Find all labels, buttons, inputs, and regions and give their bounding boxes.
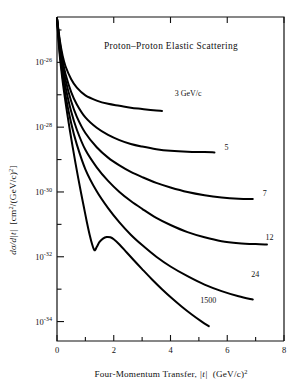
curve-24-gev-c (57, 19, 253, 300)
curve-label-4: 24 (251, 270, 259, 279)
y-axis-title: dσ/d|t| [cm2/(GeV/c)2] (7, 165, 18, 255)
y-tick-label: 10-26 (35, 56, 52, 67)
x-tick-label: 8 (282, 345, 286, 355)
x-axis-title-text: Four-Momentum Transfer, |t| (GeV/c)2 (94, 368, 247, 379)
y-tick-label: 10-30 (35, 186, 52, 197)
x-axis-tick-labels: 02468 (55, 345, 286, 355)
curve-label-3: 12 (266, 233, 274, 242)
y-axis-tick-labels: 10-2610-2810-3010-3210-34 (35, 56, 52, 327)
x-tick-label: 2 (112, 345, 116, 355)
curve-label-1: 5 (224, 143, 228, 152)
curve-group (57, 19, 267, 326)
y-axis-title-text: dσ/d|t| [cm2/(GeV/c)2] (7, 165, 18, 255)
x-axis-title: Four-Momentum Transfer, |t| (GeV/c)2 (94, 368, 247, 379)
y-tick-label: 10-28 (35, 121, 52, 132)
x-tick-label: 0 (55, 345, 59, 355)
curve-label-0: 3 GeV/c (175, 89, 202, 98)
figure-root: 3 GeV/c5712241500 10-2610-2810-3010-3210… (0, 0, 298, 390)
x-tick-label: 4 (168, 345, 173, 355)
y-tick-label: 10-34 (35, 315, 52, 326)
y-tick-label: 10-32 (35, 250, 52, 261)
scatter-cross-section-plot: 3 GeV/c5712241500 10-2610-2810-3010-3210… (0, 0, 298, 390)
curve-label-5: 1500 (200, 296, 216, 305)
curve-5-gev-c (57, 19, 214, 153)
curve-12-gev-c (57, 19, 267, 245)
curve-label-2: 7 (263, 189, 267, 198)
plot-title: Proton–Proton Elastic Scattering (104, 41, 238, 51)
x-tick-label: 6 (225, 345, 229, 355)
